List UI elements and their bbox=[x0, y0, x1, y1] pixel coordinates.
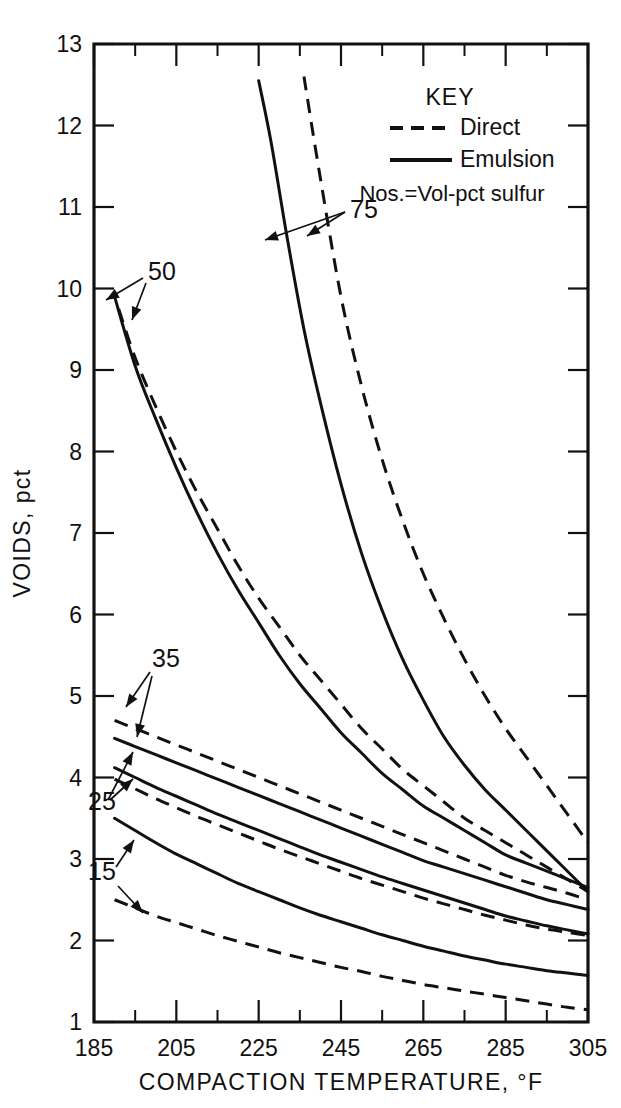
annotation-75-0-arrowhead bbox=[265, 231, 279, 240]
y-axis-title: VOIDS, pct bbox=[9, 468, 35, 597]
y-tick-label-3: 3 bbox=[69, 846, 82, 872]
voids-vs-compaction-temperature-chart: 12345678910111213185205225245265285305 7… bbox=[0, 0, 621, 1108]
curve-annotations: 7550352515 bbox=[88, 195, 378, 913]
annotation-50-1-arrowhead bbox=[132, 306, 141, 320]
y-tick-label-9: 9 bbox=[69, 357, 82, 383]
legend-label-emulsion: Emulsion bbox=[460, 146, 555, 172]
x-tick-label-205: 205 bbox=[157, 1035, 195, 1061]
x-tick-label-185: 185 bbox=[75, 1035, 113, 1061]
y-tick-label-4: 4 bbox=[69, 765, 82, 791]
annotation-25-0-arrowhead bbox=[123, 752, 133, 766]
y-tick-label-7: 7 bbox=[69, 520, 82, 546]
x-tick-label-285: 285 bbox=[486, 1035, 524, 1061]
annotation-75-1-arrowhead bbox=[307, 225, 321, 236]
x-tick-label-225: 225 bbox=[239, 1035, 277, 1061]
x-tick-label-265: 265 bbox=[404, 1035, 442, 1061]
legend-title: KEY bbox=[425, 84, 474, 110]
y-tick-label-13: 13 bbox=[56, 31, 82, 57]
curve-25-emulsion bbox=[115, 768, 588, 934]
y-tick-label-6: 6 bbox=[69, 602, 82, 628]
annotation-15-0-arrowhead bbox=[123, 840, 134, 854]
x-tick-label-305: 305 bbox=[569, 1035, 607, 1061]
figure-container: 12345678910111213185205225245265285305 7… bbox=[0, 0, 621, 1108]
curve-15-direct bbox=[115, 900, 588, 1010]
axis-titles: COMPACTION TEMPERATURE, °FVOIDS, pct bbox=[9, 468, 543, 1095]
y-tick-label-5: 5 bbox=[69, 683, 82, 709]
annotation-35-label: 35 bbox=[152, 644, 180, 672]
legend-label-direct: Direct bbox=[460, 114, 521, 140]
y-tick-label-11: 11 bbox=[58, 194, 82, 220]
annotation-50-0-arrowhead bbox=[106, 289, 120, 300]
y-tick-label-8: 8 bbox=[69, 439, 82, 465]
y-tick-label-12: 12 bbox=[56, 113, 82, 139]
legend-note: Nos.=Vol-pct sulfur bbox=[359, 181, 544, 206]
legend-key: KEYDirectEmulsionNos.=Vol-pct sulfur bbox=[359, 84, 554, 206]
x-tick-label-245: 245 bbox=[322, 1035, 360, 1061]
curve-35-emulsion bbox=[115, 738, 588, 909]
curve-15-emulsion bbox=[115, 818, 588, 975]
annotation-50-label: 50 bbox=[148, 257, 176, 285]
y-tick-label-1: 1 bbox=[69, 1009, 82, 1035]
x-axis-title: COMPACTION TEMPERATURE, °F bbox=[139, 1069, 544, 1095]
y-tick-label-2: 2 bbox=[69, 928, 82, 954]
annotation-35-0-arrowhead bbox=[126, 693, 137, 707]
annotation-15-label: 15 bbox=[88, 857, 116, 885]
y-tick-label-10: 10 bbox=[56, 276, 82, 302]
curve-50-direct bbox=[119, 309, 588, 892]
